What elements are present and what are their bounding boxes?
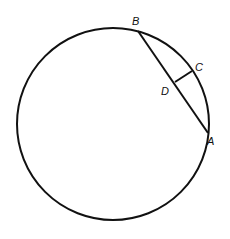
label-a: A [206, 135, 214, 147]
label-d: D [161, 85, 169, 97]
label-b: B [132, 15, 139, 27]
circle [17, 28, 209, 220]
segment-cd [175, 71, 192, 82]
chord-ab [138, 31, 208, 133]
circle-diagram: B C D A [0, 0, 230, 239]
label-c: C [195, 61, 203, 73]
